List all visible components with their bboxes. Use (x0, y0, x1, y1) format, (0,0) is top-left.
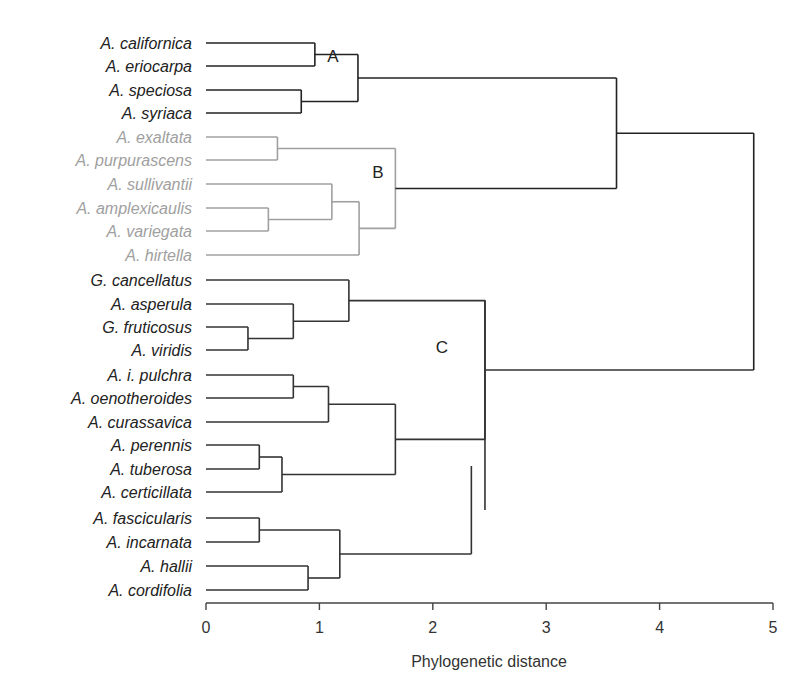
x-tick-label: 1 (315, 619, 324, 636)
leaf-label: A. curassavica (87, 414, 192, 431)
leaf-label: A. purpurascens (74, 152, 192, 169)
dendrogram-branches (206, 43, 754, 590)
clade-label-b: B (372, 163, 383, 182)
leaf-label: A. amplexicaulis (75, 200, 192, 217)
x-tick-label: 5 (769, 619, 778, 636)
leaf-label: A. exaltata (115, 129, 192, 146)
leaf-label: A. eriocarpa (105, 58, 192, 75)
leaf-label: A. fascicularis (92, 510, 192, 527)
leaf-label: A. tuberosa (109, 461, 192, 478)
x-tick-label: 4 (655, 619, 664, 636)
leaf-labels: A. californicaA. eriocarpaA. speciosaA. … (70, 35, 192, 599)
leaf-label: A. i. pulchra (107, 367, 193, 384)
leaf-label: A. perennis (110, 437, 192, 454)
leaf-label: A. incarnata (106, 534, 192, 551)
leaf-label: A. sullivantii (107, 176, 193, 193)
x-tick-label: 3 (542, 619, 551, 636)
leaf-label: A. cordifolia (107, 582, 192, 599)
leaf-label: A. hallii (139, 558, 192, 575)
leaf-label: A. syriaca (121, 105, 192, 122)
leaf-label: G. fruticosus (102, 319, 192, 336)
leaf-label: A. hirtella (124, 247, 192, 264)
leaf-label: A. oenotheroides (70, 390, 192, 407)
x-axis-ticks: 012345 (202, 603, 778, 636)
leaf-label: G. cancellatus (91, 272, 192, 289)
clade-label-a: A (327, 47, 339, 66)
leaf-label: A. speciosa (108, 82, 192, 99)
x-tick-label: 0 (202, 619, 211, 636)
leaf-label: A. certicillata (100, 484, 192, 501)
clade-label-c: C (436, 338, 448, 357)
dendrogram-chart: A. californicaA. eriocarpaA. speciosaA. … (0, 0, 806, 697)
leaf-label: A. viridis (131, 342, 192, 359)
x-axis-title: Phylogenetic distance (411, 653, 567, 670)
leaf-label: A. asperula (110, 296, 192, 313)
leaf-label: A. variegata (106, 223, 192, 240)
x-tick-label: 2 (428, 619, 437, 636)
leaf-label: A. californica (99, 35, 192, 52)
x-axis: 012345 Phylogenetic distance (202, 603, 778, 670)
